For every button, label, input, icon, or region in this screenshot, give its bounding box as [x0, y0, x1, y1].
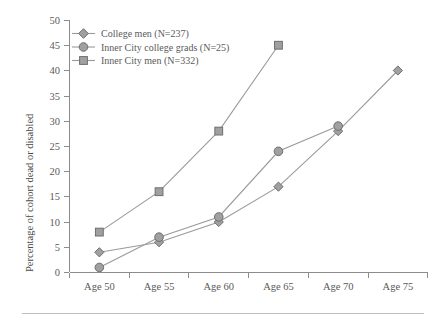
legend-item-inner-city-college-grads[interactable]: Inner City college grads (N=25) — [72, 42, 229, 54]
series-3 — [95, 41, 282, 236]
legend-label-1: Inner City college grads (N=25) — [101, 42, 229, 54]
legend-label-2: Inner City men (N=332) — [101, 55, 199, 67]
series-line — [99, 45, 278, 232]
square-marker-icon — [80, 57, 88, 65]
y-tick-label-35: 35 — [50, 91, 61, 102]
x-tick-label-age-70: Age 70 — [323, 281, 354, 292]
y-tick-label-30: 30 — [50, 116, 61, 127]
x-tick-label-age-60: Age 60 — [203, 281, 234, 292]
series-1 — [95, 66, 403, 257]
circle-marker-icon — [155, 233, 164, 242]
y-tick-label-20: 20 — [50, 166, 61, 177]
legend-item-college-men[interactable]: College men (N=237) — [72, 28, 189, 40]
y-axis-title: Percentage of cohort dead or disabled — [24, 113, 35, 272]
circle-marker-icon — [214, 213, 223, 222]
data-series-layer — [95, 41, 403, 271]
circle-marker-icon — [274, 147, 283, 156]
square-marker-icon — [215, 127, 223, 135]
y-tick-label-50: 50 — [50, 15, 61, 26]
circle-marker-icon — [79, 43, 88, 52]
x-tick-label-age-50: Age 50 — [84, 281, 115, 292]
square-marker-icon — [155, 188, 163, 196]
x-tick-label-age-55: Age 55 — [144, 281, 175, 292]
chart-legend: College men (N=237) Inner City college g… — [72, 28, 229, 67]
circle-marker-icon — [334, 122, 343, 131]
y-tick-label-40: 40 — [50, 65, 61, 76]
y-tick-label-5: 5 — [55, 242, 60, 253]
x-axis-ticks: Age 50 Age 55 Age 60 Age 65 Age 70 Age 7… — [70, 273, 428, 293]
diamond-marker-icon — [95, 248, 104, 257]
series-line — [99, 71, 398, 253]
legend-item-inner-city-men[interactable]: Inner City men (N=332) — [72, 55, 199, 67]
x-tick-label-age-65: Age 65 — [263, 281, 294, 292]
chart-container: Percentage of cohort dead or disabled 50… — [0, 0, 436, 327]
square-marker-icon — [275, 41, 283, 49]
circle-marker-icon — [95, 263, 104, 272]
y-tick-label-25: 25 — [50, 141, 61, 152]
y-axis-ticks: 50 45 40 35 30 25 20 15 10 5 0 — [50, 15, 70, 278]
series-2 — [95, 122, 342, 272]
line-chart: Percentage of cohort dead or disabled 50… — [0, 0, 436, 327]
x-tick-label-age-75: Age 75 — [383, 281, 414, 292]
diamond-marker-icon — [79, 29, 89, 39]
y-tick-label-15: 15 — [50, 191, 61, 202]
square-marker-icon — [95, 228, 103, 236]
y-tick-label-45: 45 — [50, 40, 61, 51]
y-tick-label-0: 0 — [55, 267, 60, 278]
legend-label-0: College men (N=237) — [101, 28, 189, 40]
y-tick-label-10: 10 — [50, 217, 61, 228]
